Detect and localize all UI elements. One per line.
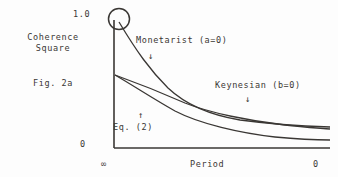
series-curve-monetarist [119, 22, 330, 127]
series-curve-eq2 [115, 75, 330, 140]
circle-annotation-icon [109, 9, 130, 30]
series-curve-keynesian [115, 75, 330, 129]
series-curves-group [115, 22, 330, 140]
figure-2a-container: Coherence Square Fig. 2a 1.0 0 ∞ Period … [0, 0, 338, 177]
plot-area [0, 0, 338, 177]
axes-group [114, 20, 330, 148]
